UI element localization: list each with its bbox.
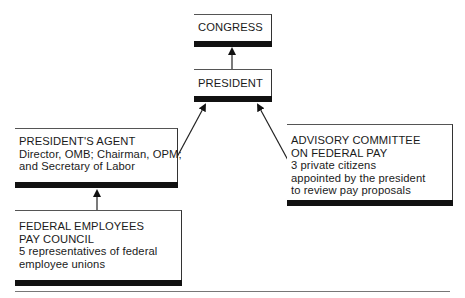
node-president-label: PRESIDENT: [198, 77, 263, 90]
node-advisory-desc-1: 3 private citizens: [291, 159, 425, 172]
node-council-desc-1: 5 representatives of federal: [19, 245, 157, 258]
node-advisory-desc-3: to review pay proposals: [291, 184, 425, 197]
node-agent-desc-2: and Secretary of Labor: [19, 160, 182, 173]
node-agent-title: PRESIDENT'S AGENT: [19, 135, 182, 148]
node-shadow-bar: [287, 200, 453, 206]
node-council-title-2: PAY COUNCIL: [19, 233, 157, 246]
node-shadow-bar: [194, 96, 272, 102]
node-president: PRESIDENT: [194, 69, 272, 102]
node-shadow-bar: [194, 41, 272, 47]
bottom-divider: [15, 291, 450, 292]
node-shadow-bar: [15, 182, 178, 188]
node-congress: CONGRESS: [194, 14, 272, 47]
node-council-title-1: FEDERAL EMPLOYEES: [19, 220, 157, 233]
node-advisory-title-1: ADVISORY COMMITTEE: [291, 134, 425, 147]
node-federal-employees-pay-council: FEDERAL EMPLOYEES PAY COUNCIL 5 represen…: [15, 210, 182, 286]
node-advisory-title-2: ON FEDERAL PAY: [291, 147, 425, 160]
node-shadow-bar: [15, 280, 182, 286]
node-advisory-desc-2: appointed by the president: [291, 172, 425, 185]
arrow-advisory-to-president: [258, 105, 289, 162]
node-council-desc-2: employee unions: [19, 258, 157, 271]
node-agent-desc-1: Director, OMB; Chairman, OPM;: [19, 148, 182, 161]
node-presidents-agent: PRESIDENT'S AGENT Director, OMB; Chairma…: [15, 128, 178, 188]
node-congress-label: CONGRESS: [198, 21, 263, 34]
node-advisory-committee: ADVISORY COMMITTEE ON FEDERAL PAY 3 priv…: [287, 124, 453, 206]
